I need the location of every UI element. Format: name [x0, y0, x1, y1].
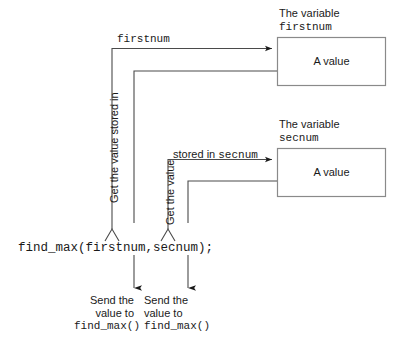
diagram-canvas: The variable firstnum A value The variab… — [0, 0, 405, 351]
arrow-label-firstnum: firstnum — [117, 33, 170, 46]
variable-caption-secnum-line2: secnum — [279, 132, 319, 145]
rotated-label-get-the-value: Get the value — [164, 160, 177, 225]
variable-box-secnum-value: A value — [277, 166, 386, 179]
send-note-2-line3: find_max() — [144, 320, 210, 333]
variable-caption-firstnum-line2: firstnum — [279, 21, 332, 34]
arrow-label-stored-in-prefix: stored in — [173, 148, 218, 160]
arrow-label-secnum-token: secnum — [218, 149, 258, 161]
variable-caption-secnum-line1: The variable — [279, 118, 340, 131]
send-note-2-line2: value to — [144, 307, 183, 320]
path-box2-return — [188, 181, 277, 223]
code-statement: find_max(firstnum,secnum); — [18, 241, 213, 256]
caret-firstnum — [105, 229, 119, 241]
send-note-1-line2: value to — [84, 307, 134, 320]
send-note-2-line1: Send the — [144, 294, 188, 307]
rotated-label-get-value-stored-in: Get the value stored in — [108, 92, 121, 203]
variable-caption-firstnum-line1: The variable — [279, 7, 340, 20]
send-note-1-line1: Send the — [84, 294, 134, 307]
variable-box-firstnum-value: A value — [277, 55, 386, 68]
arrow-label-stored-in-secnum: stored in secnum — [173, 144, 258, 163]
send-note-1-line3: find_max() — [74, 320, 134, 333]
path-firstnum-to-box — [112, 49, 272, 61]
caret-secnum — [161, 229, 175, 241]
